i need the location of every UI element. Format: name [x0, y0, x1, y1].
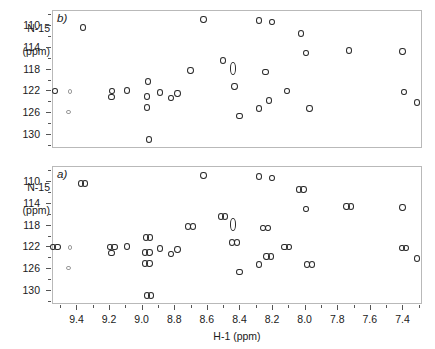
peak-marker [187, 67, 193, 74]
peak-marker [54, 244, 60, 251]
y-tick-label: 110 [10, 19, 40, 31]
y-tick-major [46, 181, 51, 182]
x-tick-major [272, 305, 273, 310]
peak-marker [236, 269, 242, 276]
x-tick-label: 8.0 [291, 313, 319, 325]
peak-marker [230, 218, 236, 231]
y-tick-minor [48, 101, 51, 102]
peak-marker [68, 89, 73, 94]
y-tick-minor [48, 192, 51, 193]
x-tick-major [207, 305, 208, 310]
y-tick-major [46, 90, 51, 91]
x-tick-label: 9.0 [128, 313, 156, 325]
x-tick-major [76, 305, 77, 310]
nmr-figure: N-15 (ppm) b) 110114118122126130 N-15 (p… [0, 0, 435, 349]
x-tick-major [174, 305, 175, 310]
x-tick-minor [191, 305, 192, 308]
x-tick-label: 7.4 [388, 313, 416, 325]
x-tick-label: 8.2 [258, 313, 286, 325]
y-tick-label: 110 [10, 175, 40, 187]
peak-marker [108, 94, 114, 101]
x-tick-major [402, 305, 403, 310]
peak-marker [145, 78, 151, 85]
peak-marker [262, 69, 268, 76]
peak-marker [306, 105, 312, 112]
y-tick-major [46, 268, 51, 269]
y-tick-label: 118 [10, 219, 40, 231]
x-tick-major [337, 305, 338, 310]
peak-marker [236, 113, 242, 120]
y-tick-major [46, 25, 51, 26]
peak-marker [108, 250, 114, 257]
y-tick-label: 130 [10, 128, 40, 140]
x-tick-label: 8.8 [160, 313, 188, 325]
peak-marker [190, 223, 196, 230]
x-tick-label: 9.2 [95, 313, 123, 325]
plot-frame-panel-a [52, 166, 422, 304]
y-tick-major [46, 290, 51, 291]
peak-marker [68, 245, 73, 250]
peak-marker [414, 99, 420, 106]
y-tick-major [46, 134, 51, 135]
y-tick-label: 118 [10, 63, 40, 75]
y-tick-minor [48, 123, 51, 124]
x-tick-minor [158, 305, 159, 308]
y-tick-minor [48, 80, 51, 81]
plot-frame-panel-b [52, 10, 422, 148]
peak-marker [148, 292, 154, 299]
peak-marker [146, 260, 152, 267]
peak-marker [82, 180, 88, 187]
y-tick-minor [48, 236, 51, 237]
x-tick-major [305, 305, 306, 310]
peak-marker [174, 246, 180, 253]
peak-marker [146, 249, 152, 256]
peak-marker [265, 225, 271, 232]
x-tick-major [109, 305, 110, 310]
x-tick-minor [93, 305, 94, 308]
x-tick-label: 9.4 [62, 313, 90, 325]
y-tick-major [46, 47, 51, 48]
y-tick-major [46, 203, 51, 204]
peak-marker [300, 186, 306, 193]
peak-marker [399, 48, 405, 55]
peak-marker [80, 24, 86, 31]
y-tick-minor [48, 214, 51, 215]
y-tick-label: 122 [10, 240, 40, 252]
y-tick-minor [48, 170, 51, 171]
peak-marker [284, 88, 290, 95]
x-tick-minor [223, 305, 224, 308]
x-tick-label: 8.6 [193, 313, 221, 325]
peak-marker [66, 110, 71, 115]
panel-label-a: a) [57, 168, 67, 180]
peak-marker [309, 261, 315, 268]
x-tick-minor [256, 305, 257, 308]
peak-marker [231, 83, 237, 90]
x-tick-minor [419, 305, 420, 308]
y-tick-label: 114 [10, 197, 40, 209]
y-tick-label: 122 [10, 84, 40, 96]
y-tick-minor [48, 257, 51, 258]
x-tick-major [370, 305, 371, 310]
x-tick-label: 8.4 [225, 313, 253, 325]
y-tick-minor [48, 36, 51, 37]
x-tick-minor [321, 305, 322, 308]
y-tick-major [46, 112, 51, 113]
peak-marker [200, 16, 206, 23]
peak-marker [266, 97, 272, 104]
y-tick-major [46, 69, 51, 70]
x-tick-minor [386, 305, 387, 308]
y-tick-minor [48, 58, 51, 59]
peak-marker [348, 203, 354, 210]
x-tick-label: 7.8 [323, 313, 351, 325]
y-tick-label: 130 [10, 284, 40, 296]
peak-marker [124, 243, 130, 250]
y-tick-major [46, 225, 51, 226]
x-tick-major [142, 305, 143, 310]
peak-marker [146, 136, 152, 143]
x-tick-minor [288, 305, 289, 308]
panel-label-b: b) [57, 12, 67, 24]
y-tick-minor [48, 14, 51, 15]
y-tick-minor [48, 301, 51, 302]
y-tick-label: 114 [10, 41, 40, 53]
peak-marker [230, 62, 236, 75]
